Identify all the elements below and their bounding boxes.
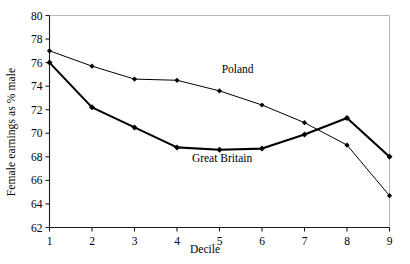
y-axis-tick-label: 80: [31, 10, 43, 22]
data-point-marker: [217, 88, 222, 93]
x-axis-title: Decile: [0, 243, 410, 255]
data-point-marker: [302, 131, 308, 137]
series-line: [50, 63, 390, 157]
y-axis-tick-label: 70: [31, 127, 43, 139]
data-point-marker: [259, 146, 265, 152]
y-axis-tick-label: 76: [31, 57, 43, 69]
series-line: [50, 51, 390, 196]
data-point-marker: [259, 102, 264, 107]
data-point-marker: [302, 120, 307, 125]
data-point-marker: [132, 77, 137, 82]
series-annotation-label: Poland: [222, 63, 254, 75]
data-point-marker: [47, 48, 52, 53]
data-point-marker: [174, 78, 179, 83]
data-series-great-britain: [47, 60, 393, 160]
chart-figure: Female earnings as % male 62646668707274…: [0, 0, 410, 264]
data-point-marker: [89, 64, 94, 69]
y-axis-tick-label: 68: [31, 151, 43, 163]
y-axis-tick-label: 62: [31, 222, 43, 234]
line-chart-plot: 62646668707274767880123456789PolandGreat…: [0, 0, 410, 264]
data-series-poland: [47, 48, 392, 198]
y-axis-tick-label: 64: [31, 198, 43, 210]
y-axis-tick-label: 78: [31, 33, 43, 45]
y-axis-tick-label: 74: [31, 80, 43, 92]
y-axis-tick-label: 72: [31, 104, 43, 116]
y-axis-tick-label: 66: [31, 174, 43, 186]
series-annotation-label: Great Britain: [192, 152, 253, 164]
